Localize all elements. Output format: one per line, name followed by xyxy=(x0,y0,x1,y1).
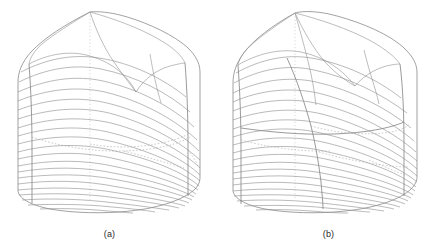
figure-a-top-ridge-left xyxy=(29,12,90,64)
figure-b-top-ridge-left xyxy=(238,13,295,65)
figure-panel: (a) xyxy=(0,0,438,243)
figure-b-isolines xyxy=(233,57,417,213)
figure-a-top-ridge-right xyxy=(90,12,185,63)
figure-b-top-patch-curve-2 xyxy=(355,64,400,86)
figure-b-seam-right xyxy=(400,64,404,196)
figure-b-top-patch-curve-4 xyxy=(295,13,316,105)
figure-b-top-ridge-right xyxy=(295,13,400,64)
figure-b-caption: (b) xyxy=(219,229,438,239)
figure-a-wireframe xyxy=(0,0,219,243)
figure-b-top-patch-curve-5 xyxy=(364,50,379,104)
figure-a-isolines xyxy=(18,57,200,213)
figure-a-top-patch-curve-4 xyxy=(150,54,161,103)
figure-a: (a) xyxy=(0,0,219,243)
figure-b-hidden-lines xyxy=(241,124,409,176)
figure-a-seam-left xyxy=(29,64,32,203)
figure-a-caption: (a) xyxy=(0,229,219,239)
figure-a-hidden-lines xyxy=(32,133,198,168)
figure-b-wireframe xyxy=(219,0,438,243)
figure-a-top-patch-curve-2 xyxy=(136,63,185,92)
figure-b: (b) xyxy=(219,0,438,243)
figure-b-top-patch-curve-3 xyxy=(295,13,355,86)
figure-a-top-patch-curve-1 xyxy=(29,53,136,92)
